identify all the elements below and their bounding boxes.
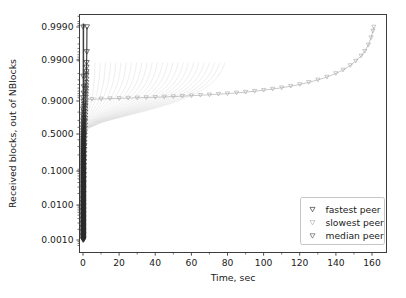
legend-item-fastest[interactable] — [304, 204, 382, 216]
y-axis: 0.99900.99000.90000.50000.10000.01000.00… — [41, 21, 79, 245]
legend-item-median[interactable] — [304, 230, 382, 242]
x-tick-label: 40 — [149, 257, 161, 268]
x-tick-label: 20 — [113, 257, 125, 268]
x-tick-label: 60 — [186, 257, 198, 268]
y-tick-label: 0.0100 — [41, 199, 73, 210]
y-tick-label: 0.9900 — [41, 54, 73, 65]
y-tick-label: 0.9000 — [41, 95, 73, 106]
x-tick-label: 100 — [255, 257, 273, 268]
y-tick-label: 0.5000 — [41, 128, 73, 139]
chart-figure: 0204060801001201401600.99900.99000.90000… — [0, 0, 406, 298]
series-slowest-peer — [83, 25, 376, 101]
y-tick-label: 0.1000 — [41, 165, 73, 176]
x-tick-label: 0 — [80, 257, 86, 268]
chart-canvas: 0204060801001201401600.99900.99000.90000… — [0, 0, 406, 298]
x-tick-label: 140 — [327, 257, 345, 268]
x-axis-title: Time, sec — [210, 272, 256, 283]
x-axis: 020406080100120140160 — [80, 253, 381, 269]
legend-item-slowest[interactable] — [304, 217, 382, 229]
y-tick-label: 0.9990 — [41, 21, 73, 32]
fastest-peer-cluster — [81, 24, 87, 243]
y-tick-label: 0.0010 — [41, 234, 73, 245]
faint-peer-traces — [84, 63, 225, 131]
y-axis-title: Received blocks, out of NBlocks — [7, 59, 18, 208]
x-tick-label: 80 — [222, 257, 234, 268]
legend: fastest peerslowest peermedian peer — [301, 198, 385, 245]
x-tick-label: 160 — [363, 257, 381, 268]
x-tick-label: 120 — [291, 257, 309, 268]
series-line — [85, 27, 374, 100]
